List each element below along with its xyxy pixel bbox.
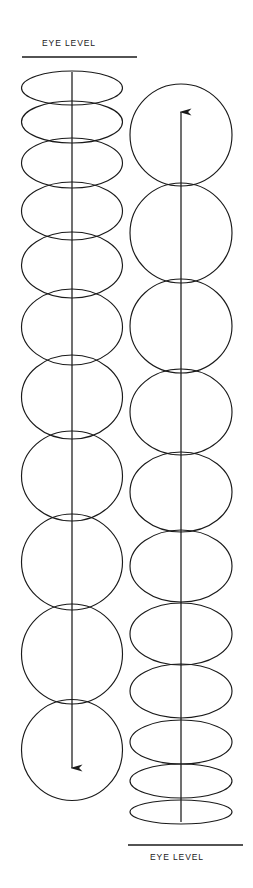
eye-level-label-bottom: EYE LEVEL xyxy=(150,852,204,862)
eye-level-label-top: EYE LEVEL xyxy=(42,38,96,48)
figure-canvas xyxy=(0,0,253,888)
perspective-ellipse-figure: EYE LEVEL EYE LEVEL xyxy=(0,0,253,888)
